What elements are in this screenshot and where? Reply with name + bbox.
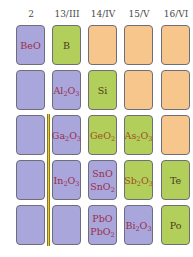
element-cell: Ga2O3: [52, 115, 81, 155]
column-header: 13/III: [51, 9, 83, 19]
element-cell: [161, 115, 190, 155]
cell-label: SnO: [92, 167, 112, 180]
element-cell: Al2O3: [52, 70, 81, 110]
cell-label: BeO: [20, 39, 40, 52]
column-header: 16/VI: [160, 9, 192, 19]
cell-label: GeO2: [90, 129, 115, 142]
element-cell: B: [52, 25, 81, 65]
cell-label: In2O3: [54, 174, 80, 187]
element-cell: [124, 70, 153, 110]
cell-label: Po: [170, 219, 182, 232]
element-cell: As2O3: [124, 115, 153, 155]
element-cell: [88, 25, 117, 65]
cell-label: Te: [170, 174, 181, 187]
element-cell: [161, 25, 190, 65]
column-header: 15/V: [123, 9, 155, 19]
element-cell: Sb2O3: [124, 160, 153, 200]
element-cell: Si: [88, 70, 117, 110]
element-cell: SnOSnO2: [88, 160, 117, 200]
cell-label: SnO2: [90, 180, 115, 193]
cell-label: PbO2: [90, 225, 114, 238]
cell-label: Sb2O3: [124, 174, 153, 187]
element-cell: [16, 115, 45, 155]
cell-label: As2O3: [125, 129, 153, 142]
element-cell: [16, 70, 45, 110]
element-cell: [52, 205, 81, 245]
element-cell: [161, 70, 190, 110]
element-cell: BeO: [16, 25, 45, 65]
cell-label: Ga2O3: [52, 129, 81, 142]
cell-label: Al2O3: [54, 84, 80, 97]
cell-label: Bi2O3: [125, 219, 151, 232]
element-cell: [16, 205, 45, 245]
element-cell: Te: [161, 160, 190, 200]
cell-label: Si: [98, 84, 108, 97]
element-cell: [16, 160, 45, 200]
cell-label: PbO: [92, 212, 112, 225]
element-cell: GeO2: [88, 115, 117, 155]
column-header: 14/IV: [87, 9, 119, 19]
element-cell: [124, 25, 153, 65]
divider-bar: [47, 114, 50, 246]
element-cell: In2O3: [52, 160, 81, 200]
element-cell: Po: [161, 205, 190, 245]
cell-label: B: [63, 39, 70, 52]
element-cell: PbOPbO2: [88, 205, 117, 245]
element-cell: Bi2O3: [124, 205, 153, 245]
column-header: 2: [15, 9, 47, 19]
